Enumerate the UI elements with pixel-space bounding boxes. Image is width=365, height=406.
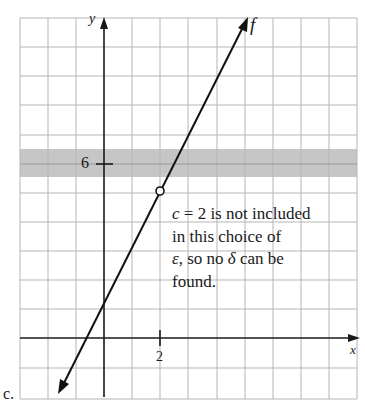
- delta-symbol: δ: [228, 249, 236, 268]
- y-axis-label: y: [89, 11, 95, 27]
- annotation-line-4: found.: [172, 271, 362, 294]
- line-arrow-down-icon: [58, 379, 69, 394]
- panel-label: c.: [3, 385, 14, 403]
- annotation-line-3a: , so no: [179, 249, 228, 268]
- annotation-line-1: = 2 is not included: [180, 204, 311, 223]
- open-point: [156, 187, 164, 195]
- function-label: f: [250, 14, 255, 36]
- x-axis-arrow-icon: [348, 334, 360, 342]
- x-axis-label: x: [350, 342, 356, 358]
- annotation-text: c = 2 is not included in this choice of …: [172, 203, 362, 294]
- annotation-line-3b: can be: [236, 249, 284, 268]
- c-var: c: [172, 204, 180, 223]
- annotation-line-2: in this choice of: [172, 226, 362, 249]
- y-tick-label: 6: [81, 154, 89, 172]
- line-arrow-up-icon: [238, 17, 248, 32]
- y-axis-arrow-icon: [100, 17, 108, 29]
- epsilon-symbol: ε: [172, 249, 179, 268]
- x-tick-label: 2: [156, 349, 163, 365]
